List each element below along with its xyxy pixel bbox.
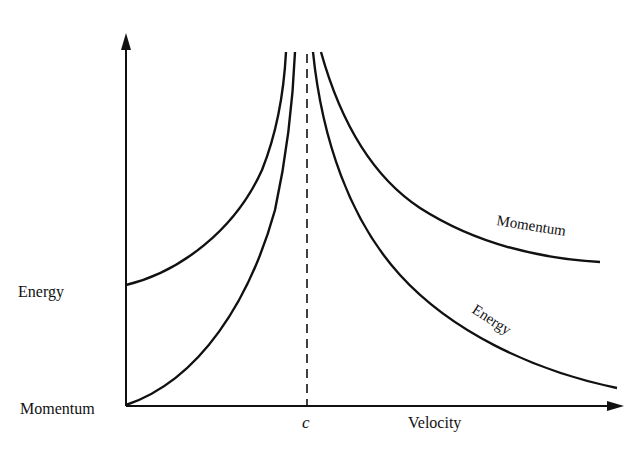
velocity-axis-label: Velocity [408,414,461,432]
energy-momentum-velocity-diagram: Energy Momentum c Velocity Momentum Ener… [0,0,642,449]
energy-curve-label: Energy [469,301,514,338]
momentum-curve-below-c [126,52,295,405]
x-axis-arrow-icon [607,401,624,411]
c-tick-label: c [302,413,310,432]
momentum-axis-label: Momentum [20,400,95,417]
energy-axis-label: Energy [18,283,64,301]
momentum-curve-label: Momentum [496,212,568,239]
y-axis-arrow-icon [121,33,131,50]
energy-curve-above-c [313,52,617,388]
